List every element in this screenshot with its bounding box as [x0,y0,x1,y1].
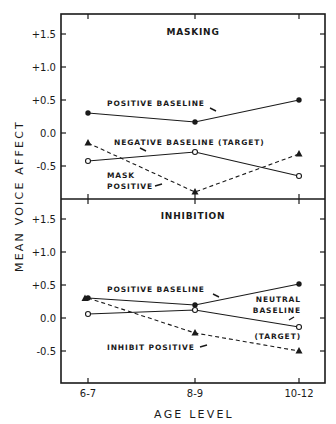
label-pointer [155,184,162,186]
y-tick-label: -0.5 [36,346,56,357]
y-tick-label: +1.0 [32,62,56,73]
label-pointer [140,148,146,151]
open-circle-marker [193,308,198,313]
label-pointer [213,294,219,297]
inhibition-y-tick-labels: +1.5 +1.0 +0.5 0.0 -0.5 [32,214,56,357]
label-pointer [200,345,207,347]
open-circle-marker [193,150,198,155]
y-axis-title: MEAN VOICE AFFECT [13,120,26,272]
x-axis-title: AGE LEVEL [154,408,234,421]
x-tick-labels: 6-7 8-9 10-12 [80,388,314,399]
open-circle-marker [86,312,91,317]
open-circle-marker [297,325,302,330]
filled-triangle-marker [296,150,303,157]
label-pointer [289,317,294,320]
masking-mask-positive-label-line1: MASK [107,171,135,180]
filled-circle-marker [85,110,90,115]
open-circle-marker [86,159,91,164]
masking-mask-positive-label-line2: POSITIVE [107,182,153,191]
inhibition-panel-title: INHIBITION [161,211,226,221]
masking-positive-baseline-label: POSITIVE BASELINE [107,99,205,108]
filled-circle-marker [192,119,197,124]
y-tick-label: 0.0 [40,313,56,324]
masking-negative-baseline-label: NEGATIVE BASELINE (TARGET) [114,138,265,147]
masking-y-tick-labels: +1.5 +1.0 +0.5 0.0 -0.5 [32,29,56,172]
y-tick-label: 0.0 [40,128,56,139]
filled-circle-marker [192,302,197,307]
y-tick-label: +1.5 [32,214,56,225]
masking-panel-title: MASKING [166,27,219,37]
filled-circle-marker [296,97,301,102]
filled-triangle-marker [192,329,199,336]
inhibition-neutral-baseline-label-line1: NEUTRAL [256,295,301,304]
y-tick-label: +1.5 [32,29,56,40]
filled-triangle-marker [296,347,303,354]
inhibition-positive-baseline-label: POSITIVE BASELINE [107,285,205,294]
y-tick-label: +0.5 [32,280,56,291]
x-tick-label: 10-12 [284,388,313,399]
x-tick-label: 6-7 [80,388,96,399]
y-tick-label: +1.0 [32,247,56,258]
voice-affect-figure: +1.5 +1.0 +0.5 0.0 -0.5 +1.5 +1.0 +0.5 0… [0,0,336,424]
label-pointer [210,108,216,111]
filled-circle-marker [296,281,301,286]
x-tick-label: 8-9 [187,388,203,399]
inhibition-inhibit-positive-label: INHIBIT POSITIVE [107,343,195,352]
filled-triangle-marker [85,139,92,146]
open-circle-marker [297,174,302,179]
y-tick-label: -0.5 [36,161,56,172]
inhibition-neutral-baseline-label-line2: BASELINE [253,306,301,315]
y-tick-label: +0.5 [32,95,56,106]
inhibition-neutral-baseline-label-line3: (TARGET) [254,332,301,341]
